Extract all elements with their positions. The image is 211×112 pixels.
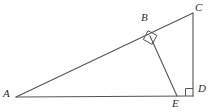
segment-ad [16,96,193,97]
segment-be [150,36,177,96]
right-angle-marker-d [186,89,194,97]
vertex-label-a: A [3,88,10,99]
geometry-figure-svg [0,0,211,112]
vertex-label-d: D [198,83,206,94]
geometry-diagram: A B C D E [0,0,211,112]
segment-ac [16,13,193,97]
vertex-label-e: E [172,98,179,109]
vertex-label-c: C [195,2,202,13]
vertex-label-b: B [141,12,148,23]
